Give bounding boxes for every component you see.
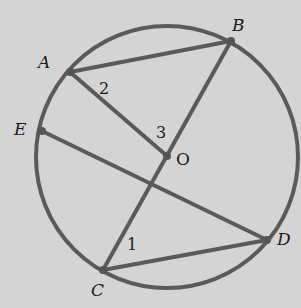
point-c-dot <box>99 266 107 274</box>
label-d: D <box>276 229 291 249</box>
point-o-dot <box>163 152 171 160</box>
angle-label-1: 1 <box>127 235 137 254</box>
label-b: B <box>231 15 245 35</box>
point-b-dot <box>227 37 235 45</box>
point-a-dot <box>66 68 74 76</box>
point-e-dot <box>38 127 46 135</box>
label-e: E <box>13 119 27 139</box>
angle-label-2: 2 <box>99 79 109 98</box>
geometry-diagram: A B E O C D 1 2 3 <box>0 0 301 308</box>
label-o: O <box>176 149 190 169</box>
point-d-dot <box>263 236 271 244</box>
angle-label-3: 3 <box>156 123 166 142</box>
label-c: C <box>91 280 104 300</box>
label-a: A <box>36 52 50 72</box>
